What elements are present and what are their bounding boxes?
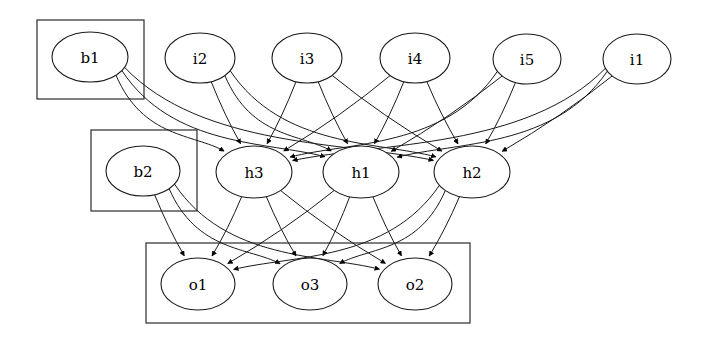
edge-i5-to-h2 [486, 83, 516, 144]
edge-i4-to-h1 [375, 82, 404, 144]
node-label-i2: i2 [193, 50, 207, 68]
graph-svg: b1i2i3i4i5i1b2h3h1h2o1o3o2 [0, 0, 711, 342]
edge-b1-to-h2 [125, 67, 434, 160]
node-label-i3: i3 [300, 50, 314, 68]
node-b2[interactable]: b2 [106, 146, 180, 196]
node-h2[interactable]: h2 [434, 146, 510, 198]
node-label-b2: b2 [133, 163, 152, 181]
edge-i3-to-h3 [267, 82, 296, 144]
node-label-i1: i1 [630, 51, 644, 69]
node-o1[interactable]: o1 [161, 258, 235, 310]
node-o2[interactable]: o2 [378, 258, 452, 310]
edge-b2-to-o3 [169, 189, 280, 264]
edge-h2-to-o3 [340, 191, 446, 264]
node-label-i4: i4 [408, 50, 422, 68]
edge-i2-to-h3 [211, 82, 240, 144]
edge-i2-to-h1 [225, 76, 331, 151]
nodes: b1i2i3i4i5i1b2h3h1h2o1o3o2 [52, 32, 671, 310]
node-label-o3: o3 [301, 276, 320, 294]
node-label-h1: h1 [351, 164, 370, 182]
edge-b2-to-o1 [155, 195, 185, 256]
edge-h3-to-o1 [212, 197, 242, 256]
node-b1[interactable]: b1 [52, 32, 128, 82]
node-label-o1: o1 [189, 276, 208, 294]
edge-h2-to-o2 [429, 197, 459, 256]
node-label-i5: i5 [520, 51, 534, 69]
edge-h3-to-o3 [266, 197, 296, 256]
node-label-b1: b1 [80, 49, 99, 67]
node-i4[interactable]: i4 [380, 33, 450, 83]
node-label-h2: h2 [462, 164, 481, 182]
edge-i1-to-h2 [502, 76, 612, 151]
edge-b1-to-h3 [116, 75, 224, 151]
diagram-canvas: b1i2i3i4i5i1b2h3h1h2o1o3o2 [0, 0, 711, 342]
edge-i4-to-h3 [284, 76, 390, 151]
node-label-h3: h3 [244, 164, 263, 182]
node-h3[interactable]: h3 [216, 146, 292, 198]
edge-i2-to-h2 [230, 71, 436, 157]
node-i3[interactable]: i3 [272, 33, 342, 83]
node-i1[interactable]: i1 [603, 34, 671, 84]
edge-h1-to-o1 [228, 190, 334, 263]
edge-i1-to-h1 [397, 71, 607, 157]
node-o3[interactable]: o3 [273, 258, 347, 310]
node-h1[interactable]: h1 [323, 146, 399, 198]
node-i5[interactable]: i5 [493, 34, 561, 84]
node-label-o2: o2 [406, 276, 425, 294]
node-i2[interactable]: i2 [165, 33, 235, 83]
